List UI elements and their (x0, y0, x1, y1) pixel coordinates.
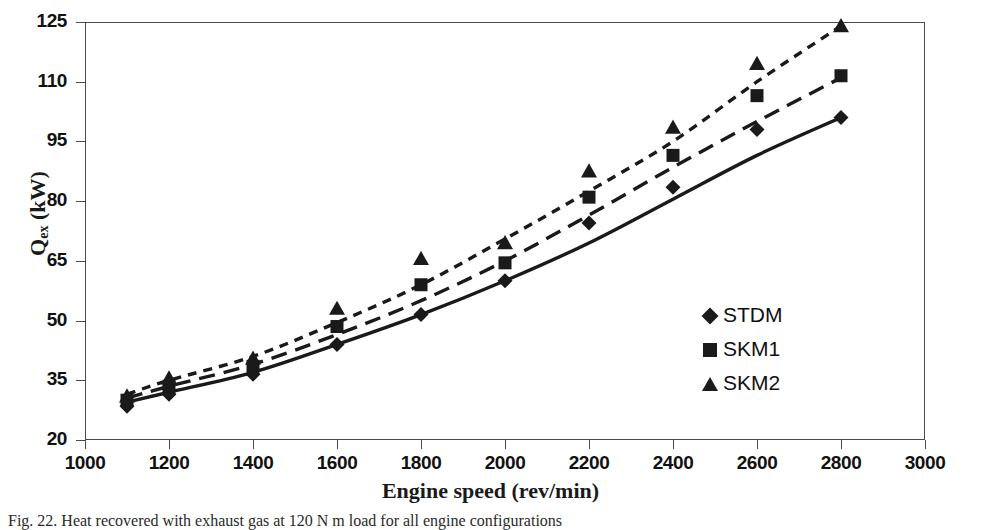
y-tick-mark (76, 141, 85, 142)
figure-container: Qex (kW) 203550658095110125 100012001400… (0, 0, 981, 530)
data-point-skm1 (415, 278, 428, 291)
y-tick-mark (76, 82, 85, 83)
data-point-stdm (582, 216, 597, 231)
y-tick-label: 125 (5, 10, 67, 32)
data-point-skm2 (245, 350, 261, 364)
data-point-stdm (330, 337, 345, 352)
x-tick-mark (925, 440, 926, 449)
legend-label-skm2: SKM2 (723, 371, 780, 395)
y-tick-mark (76, 380, 85, 381)
data-point-stdm (666, 180, 681, 195)
y-tick-label: 20 (5, 428, 67, 450)
legend-item-skm2: SKM2 (700, 366, 783, 400)
x-tick-label: 1000 (50, 452, 120, 474)
y-tick-label: 50 (5, 309, 67, 331)
x-tick-label: 2200 (554, 452, 624, 474)
data-point-skm1 (499, 256, 512, 269)
data-point-skm2 (749, 56, 765, 70)
data-point-skm2 (581, 163, 597, 177)
x-axis-label: Engine speed (rev/min) (0, 478, 981, 504)
x-tick-mark (757, 440, 758, 449)
data-point-skm1 (583, 191, 596, 204)
y-tick-mark (76, 22, 85, 23)
x-tick-label: 1200 (134, 452, 204, 474)
triangle-marker-icon (700, 373, 720, 393)
x-tick-label: 1800 (386, 452, 456, 474)
data-point-skm1 (331, 320, 344, 333)
y-axis-label-subscript: ex (36, 226, 51, 239)
data-point-skm1 (835, 69, 848, 82)
y-tick-mark (76, 261, 85, 262)
y-tick-label: 80 (5, 189, 67, 211)
data-point-skm2 (329, 301, 345, 315)
legend-item-skm1: SKM1 (700, 332, 783, 366)
x-tick-mark (421, 440, 422, 449)
x-tick-label: 1400 (218, 452, 288, 474)
data-point-skm2 (833, 18, 849, 32)
data-point-skm1 (751, 89, 764, 102)
y-tick-label: 65 (5, 249, 67, 271)
diamond-marker-icon (700, 305, 720, 325)
chart-legend: STDM SKM1 SKM2 (700, 298, 783, 400)
y-tick-mark (76, 321, 85, 322)
square-marker-icon (700, 339, 720, 359)
data-point-skm2 (413, 251, 429, 265)
chart-canvas (0, 0, 981, 530)
x-tick-label: 1600 (302, 452, 372, 474)
x-tick-label: 2000 (470, 452, 540, 474)
legend-label-skm1: SKM1 (723, 337, 780, 361)
x-tick-mark (505, 440, 506, 449)
x-tick-mark (253, 440, 254, 449)
legend-label-stdm: STDM (723, 303, 783, 327)
x-tick-label: 3000 (890, 452, 960, 474)
y-tick-mark (76, 440, 85, 441)
y-tick-label: 110 (5, 70, 67, 92)
x-tick-label: 2600 (722, 452, 792, 474)
x-tick-label: 2400 (638, 452, 708, 474)
figure-caption: Fig. 22. Heat recovered with exhaust gas… (8, 512, 968, 530)
data-point-stdm (414, 307, 429, 322)
x-tick-mark (85, 440, 86, 449)
data-point-skm2 (665, 119, 681, 133)
data-point-stdm (834, 110, 849, 125)
data-point-skm1 (667, 149, 680, 162)
x-tick-mark (337, 440, 338, 449)
x-tick-mark (673, 440, 674, 449)
y-tick-label: 95 (5, 129, 67, 151)
x-tick-mark (841, 440, 842, 449)
x-tick-label: 2800 (806, 452, 876, 474)
x-tick-mark (169, 440, 170, 449)
data-point-stdm (498, 273, 513, 288)
legend-item-stdm: STDM (700, 298, 783, 332)
y-tick-mark (76, 201, 85, 202)
x-tick-mark (589, 440, 590, 449)
y-tick-label: 35 (5, 368, 67, 390)
